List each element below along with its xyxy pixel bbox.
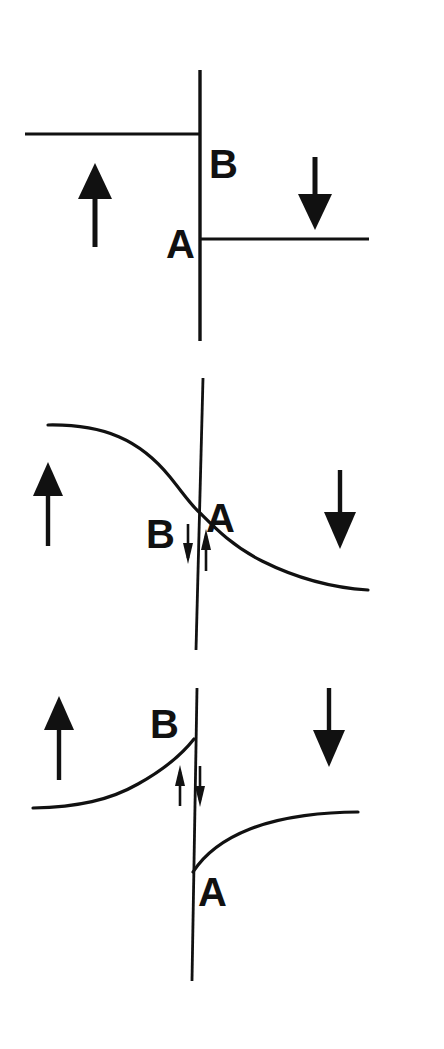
small-arrow-up-icon	[175, 765, 185, 806]
arrow-down-icon	[298, 157, 332, 230]
arrow-up-icon	[33, 462, 63, 546]
panel-top: B A	[25, 70, 369, 341]
panel-middle: B A	[33, 378, 368, 650]
label-a: A	[206, 496, 235, 540]
panel-bottom: B A	[33, 688, 358, 981]
figure-canvas: B A B A	[0, 0, 444, 1049]
label-b: B	[146, 512, 175, 556]
arrow-down-icon	[324, 470, 356, 549]
exponential-curve-right	[193, 812, 358, 872]
label-a: A	[198, 870, 227, 914]
vertical-boundary-line-icon	[192, 688, 197, 981]
arrow-up-icon	[44, 696, 74, 780]
small-arrow-down-icon	[183, 524, 193, 564]
arrow-down-icon	[313, 688, 345, 767]
label-a: A	[166, 222, 195, 266]
arrow-up-icon	[78, 163, 112, 247]
label-b: B	[209, 142, 238, 186]
label-b: B	[150, 702, 179, 746]
figure-root: B A B A	[0, 0, 444, 1049]
